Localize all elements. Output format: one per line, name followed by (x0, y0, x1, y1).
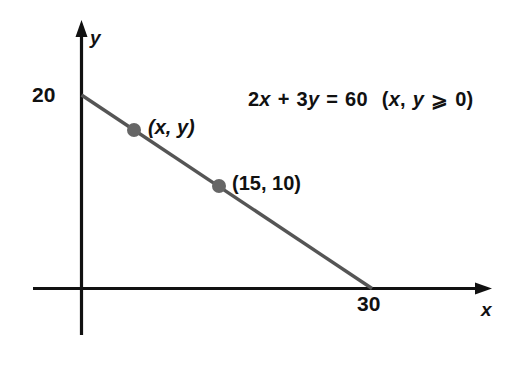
point-marker-xy (127, 123, 141, 137)
constraint-zero: 0 (455, 88, 466, 110)
y-axis-arrowhead (76, 20, 88, 37)
equation-var-x: x (259, 88, 270, 110)
x-axis-arrowhead (475, 283, 492, 295)
constraint-var-y: y (413, 88, 424, 110)
equation-coef-x: 2 (248, 88, 259, 110)
linear-equation-graph-figure: y x 20 30 (x, y) (15, 10) 2x+3y=60(x,y⩾0… (0, 0, 514, 365)
equation-annotation: 2x+3y=60(x,y⩾0) (248, 89, 473, 109)
constraint-comma: , (400, 88, 406, 110)
constraint-open-paren: ( (382, 88, 389, 110)
equation-equals-operator: = (326, 88, 338, 110)
equation-rhs-value: 60 (345, 88, 368, 110)
constraint-var-x: x (389, 88, 400, 110)
equation-line (82, 95, 373, 289)
equation-plus-operator: + (278, 88, 290, 110)
point-label-generic: (x, y) (148, 117, 195, 137)
point-label-15-10: (15, 10) (232, 173, 301, 193)
greater-than-or-equal-icon: ⩾ (431, 90, 448, 110)
y-intercept-tick-label: 20 (32, 84, 55, 105)
point-marker-15-10 (212, 179, 226, 193)
x-intercept-tick-label: 30 (357, 293, 380, 314)
equation-coef-y: 3 (297, 88, 308, 110)
constraint-close-paren: ) (467, 88, 474, 110)
equation-var-y: y (308, 88, 319, 110)
y-axis-label: y (90, 28, 101, 47)
x-axis-label: x (481, 300, 492, 319)
